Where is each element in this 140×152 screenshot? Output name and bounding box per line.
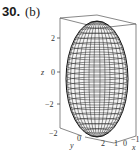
- ellipsoid-surface: [66, 21, 128, 137]
- x-tick-0: 0: [123, 139, 127, 148]
- x-tick-1: 1: [114, 139, 118, 148]
- z-axis: [57, 38, 60, 104]
- y-tick-neg2: −2: [49, 129, 58, 138]
- y-axis-label: y: [69, 141, 74, 150]
- x-axis-label: x: [131, 143, 136, 152]
- z-tick-0: 0: [51, 68, 55, 77]
- y-tick-2: 2: [101, 139, 105, 148]
- z-axis-label: z: [40, 68, 45, 77]
- z-tick-2: 2: [51, 34, 55, 43]
- z-tick-neg2: −2: [45, 100, 54, 109]
- y-tick-0: 0: [77, 134, 81, 143]
- ellipsoid-plot: 2 z 0 −2: [0, 0, 140, 152]
